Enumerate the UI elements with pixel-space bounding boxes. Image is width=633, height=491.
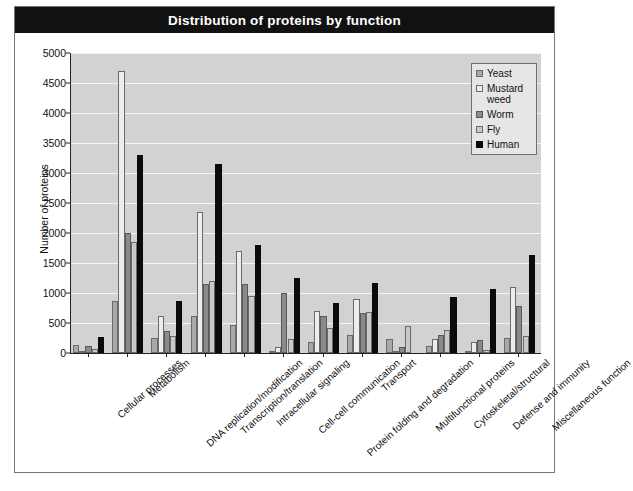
bar-group <box>308 53 339 353</box>
y-tick-mark <box>66 203 70 204</box>
y-tick-label: 1000 <box>43 287 66 299</box>
legend-item[interactable]: Mustard weed <box>476 83 532 105</box>
bar-group <box>191 53 222 353</box>
bar[interactable] <box>333 303 339 353</box>
y-tick-mark <box>66 353 70 354</box>
bar[interactable] <box>490 289 496 353</box>
y-tick-mark <box>66 83 70 84</box>
bar[interactable] <box>405 326 411 353</box>
legend-label: Mustard weed <box>487 83 532 105</box>
y-tick-mark <box>66 323 70 324</box>
bar-group <box>112 53 143 353</box>
legend-swatch <box>476 85 483 92</box>
y-tick-mark <box>66 233 70 234</box>
y-tick-label: 4000 <box>43 107 66 119</box>
bar[interactable] <box>294 278 300 353</box>
legend-label: Yeast <box>487 68 512 79</box>
x-tick-label: Miscellaneous function <box>550 357 633 433</box>
legend-swatch <box>476 70 483 77</box>
y-tick-mark <box>66 113 70 114</box>
bar[interactable] <box>450 297 456 353</box>
legend-label: Worm <box>487 109 513 120</box>
bar-group <box>386 53 417 353</box>
bar-group <box>151 53 182 353</box>
legend-label: Fly <box>487 124 500 135</box>
legend-swatch <box>476 126 483 133</box>
legend-label: Human <box>487 139 519 150</box>
bar[interactable] <box>215 164 221 353</box>
bar-group <box>73 53 104 353</box>
y-tick-label: 5000 <box>43 47 66 59</box>
legend-swatch <box>476 111 483 118</box>
y-tick-mark <box>66 173 70 174</box>
bar[interactable] <box>372 283 378 353</box>
bar[interactable] <box>98 337 104 353</box>
y-tick-label: 1500 <box>43 257 66 269</box>
y-tick-mark <box>66 53 70 54</box>
bar-group <box>269 53 300 353</box>
y-axis: Number of proteins 050010001500200025003… <box>18 53 66 353</box>
legend-item[interactable]: Yeast <box>476 68 532 79</box>
y-tick-label: 4500 <box>43 77 66 89</box>
y-tick-mark <box>66 293 70 294</box>
bar-group <box>347 53 378 353</box>
y-tick-label: 500 <box>48 317 66 329</box>
bar[interactable] <box>255 245 261 353</box>
legend-item[interactable]: Fly <box>476 124 532 135</box>
bar-group <box>426 53 457 353</box>
x-tick-label: DNA replication/modification <box>204 357 304 449</box>
legend-swatch <box>476 141 483 148</box>
legend: YeastMustard weedWormFlyHuman <box>471 63 537 155</box>
y-tick-label: 2000 <box>43 227 66 239</box>
chart-title: Distribution of proteins by function <box>15 7 554 33</box>
bar[interactable] <box>529 255 535 353</box>
bar[interactable] <box>176 301 182 353</box>
y-tick-label: 3000 <box>43 167 66 179</box>
y-tick-mark <box>66 143 70 144</box>
bar[interactable] <box>137 155 143 353</box>
legend-item[interactable]: Human <box>476 139 532 150</box>
legend-item[interactable]: Worm <box>476 109 532 120</box>
x-axis-labels: Cellular processesMetabolismDNA replicat… <box>70 357 540 467</box>
y-tick-label: 3500 <box>43 137 66 149</box>
bar-group <box>230 53 261 353</box>
y-tick-label: 2500 <box>43 197 66 209</box>
y-tick-mark <box>66 263 70 264</box>
